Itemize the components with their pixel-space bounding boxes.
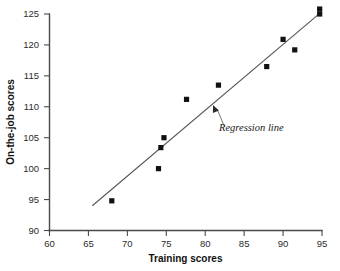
data-point-marker	[280, 37, 285, 42]
y-tick-label: 125	[23, 8, 39, 19]
data-point-marker	[216, 83, 221, 88]
x-tick-label: 80	[200, 238, 211, 249]
y-tick-label: 120	[23, 39, 39, 50]
data-point-marker	[158, 145, 163, 150]
y-axis-title: On-the-job scores	[5, 79, 16, 165]
x-tick-label: 60	[44, 238, 55, 249]
regression-annotation: Regression line	[213, 105, 284, 133]
data-point-marker	[317, 6, 322, 11]
y-tick-label: 110	[24, 101, 39, 112]
data-point-marker	[184, 97, 189, 102]
y-axis-ticks: 9095100105110115120125	[23, 8, 49, 236]
x-tick-label: 85	[239, 238, 250, 249]
scatter-plot-figure: 9095100105110115120125 6065707580859095 …	[0, 0, 340, 271]
x-tick-label: 75	[161, 238, 172, 249]
x-axis-ticks: 6065707580859095	[44, 231, 327, 250]
x-tick-label: 70	[122, 238, 133, 249]
x-axis-title: Training scores	[149, 253, 223, 264]
data-points-group	[109, 6, 322, 203]
data-point-marker	[156, 166, 161, 171]
y-tick-label: 90	[28, 225, 39, 236]
x-tick-label: 90	[278, 238, 289, 249]
y-tick-label: 115	[24, 70, 39, 81]
y-tick-label: 95	[28, 194, 39, 205]
data-point-marker	[264, 64, 269, 69]
y-tick-label: 105	[23, 132, 39, 143]
data-point-marker	[317, 11, 322, 16]
y-tick-label: 100	[23, 163, 39, 174]
data-point-marker	[161, 135, 166, 140]
data-point-marker	[292, 47, 297, 52]
data-point-marker	[109, 198, 114, 203]
plot-canvas: 9095100105110115120125 6065707580859095 …	[0, 0, 340, 271]
x-tick-label: 95	[317, 238, 328, 249]
x-tick-label: 65	[83, 238, 94, 249]
regression-line	[92, 12, 321, 206]
regression-line-label: Regression line	[218, 122, 284, 133]
